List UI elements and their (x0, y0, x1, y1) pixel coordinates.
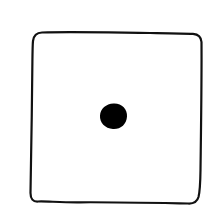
pip-icon (100, 103, 127, 129)
die-face-drawing (0, 0, 214, 223)
